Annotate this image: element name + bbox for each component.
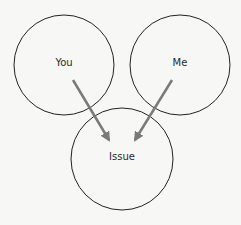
arrow-you-to-issue: [73, 80, 109, 140]
node-you: You: [14, 15, 114, 115]
label-you: You: [54, 57, 72, 68]
arrow-me-to-issue: [135, 80, 172, 140]
node-issue: Issue: [71, 108, 173, 210]
label-me: Me: [173, 57, 188, 68]
node-me: Me: [130, 15, 230, 115]
label-issue: Issue: [109, 151, 135, 162]
diagram-canvas: You Me Issue: [0, 0, 241, 225]
